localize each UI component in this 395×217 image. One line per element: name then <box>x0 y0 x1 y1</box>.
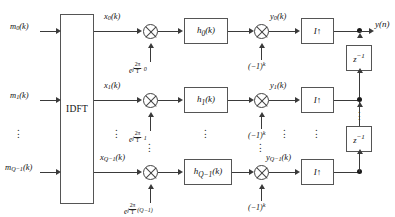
exponential-label-row1: ej2πT· 1 <box>129 131 147 144</box>
block-diagram-canvas: IDFT m0(k) x0(k) ej2πT· 0 h0(k) (−1)k y0… <box>0 0 395 217</box>
arrow-sign-row2 <box>259 184 265 189</box>
wire-sign-row1 <box>261 117 262 129</box>
wire-tosign-row0 <box>228 31 251 32</box>
sign-multiplier-row2 <box>254 165 269 180</box>
wire-tointerp-row0 <box>269 31 297 32</box>
output-label: y(n) <box>375 20 390 29</box>
wire-exp-row1 <box>150 117 151 131</box>
interpolator-block-row1: I↑ <box>301 87 334 113</box>
delay-label-0: z−1 <box>353 52 365 64</box>
arrow-in-row2 <box>56 169 61 175</box>
arrow-tointerp-row2 <box>295 169 300 175</box>
filter-label-row2: hQ−1(k) <box>194 166 223 179</box>
sign-multiplier-row1 <box>254 93 269 108</box>
arrow-in-row1 <box>56 97 61 103</box>
arrow-output <box>369 28 374 34</box>
input-label-row0: m0(k) <box>10 22 29 32</box>
ellipsis-delays: ... <box>358 108 361 119</box>
filter-block-row0: h0(k) <box>184 18 228 44</box>
arrow-sign-row0 <box>259 43 265 48</box>
wire-tointerp-row1 <box>269 100 297 101</box>
arrow-tofilter-row2 <box>178 169 183 175</box>
y-label-row0: y0(k) <box>270 12 286 22</box>
ellipsis-inputs: ... <box>17 126 20 137</box>
wire-exp-row2 <box>150 189 151 203</box>
interpolator-label-row2: I↑ <box>314 167 322 177</box>
arrow-delay1-in <box>357 149 363 154</box>
arrow-delay-top-up <box>357 33 363 38</box>
modulator-multiplier-row2 <box>143 165 158 180</box>
wire-delay0-in <box>359 71 360 97</box>
y-label-row2: yQ−1(k) <box>266 153 291 163</box>
wire-x-row1 <box>94 100 139 101</box>
filter-label-row1: h1(k) <box>197 94 215 107</box>
input-label-row1: m1(k) <box>10 91 29 101</box>
x-label-row2: xQ−1(k) <box>100 153 125 163</box>
wire-delay1-in <box>359 152 360 172</box>
filter-label-row0: h0(k) <box>197 25 215 38</box>
interpolator-label-row0: I↑ <box>314 26 322 36</box>
interpolator-label-row1: I↑ <box>314 95 322 105</box>
arrow-x-row0 <box>137 28 142 34</box>
input-label-row2: mQ−1(k) <box>5 163 32 173</box>
arrow-tointerp-row0 <box>295 28 300 34</box>
arrow-exp-row0 <box>148 43 154 48</box>
delay-label-1: z−1 <box>353 133 365 145</box>
wire-tofilter-row0 <box>158 31 180 32</box>
idft-label: IDFT <box>66 104 88 114</box>
x-label-row0: x0(k) <box>104 12 120 22</box>
wire-tointerp-row2 <box>269 172 297 173</box>
exponential-label-row2: ej2πT·(Q−1) <box>124 203 153 216</box>
sign-multiplier-row0 <box>254 24 269 39</box>
wire-sign-row2 <box>261 189 262 201</box>
arrow-x-row2 <box>137 169 142 175</box>
exponential-label-row0: ej2πT· 0 <box>129 62 147 75</box>
arrow-tofilter-row1 <box>178 97 183 103</box>
sign-label-row1: (−1)k <box>248 130 265 140</box>
arrow-sign-row1 <box>259 112 265 117</box>
wire-tofilter-row1 <box>158 100 180 101</box>
arrow-x-row1 <box>137 97 142 103</box>
filter-block-row2: hQ−1(k) <box>184 159 232 185</box>
wire-tosign-row1 <box>228 100 251 101</box>
y-label-row1: y1(k) <box>270 81 286 91</box>
ellipsis-y: ... <box>283 126 286 137</box>
arrow-tointerp-row1 <box>295 97 300 103</box>
wire-tofilter-row2 <box>158 172 180 173</box>
ellipsis-sign: ... <box>259 140 262 151</box>
arrow-in-row0 <box>56 28 61 34</box>
ellipsis-x: ... <box>115 126 118 137</box>
ellipsis-modulators: ... <box>148 140 151 151</box>
sign-label-row0: (−1)k <box>248 61 265 71</box>
wire-x-row0 <box>94 31 139 32</box>
wire-sign-row0 <box>261 48 262 60</box>
filter-block-row1: h1(k) <box>184 87 228 113</box>
ellipsis-filters: ... <box>204 126 207 137</box>
ellipsis-interpolators: ... <box>315 126 318 137</box>
sign-label-row2: (−1)k <box>248 202 265 212</box>
arrow-exp-row2 <box>148 184 154 189</box>
wire-x-row2 <box>94 172 139 173</box>
arrow-delay0-in <box>357 68 363 73</box>
interpolator-block-row2: I↑ <box>301 159 334 185</box>
arrow-tofilter-row0 <box>178 28 183 34</box>
interpolator-block-row0: I↑ <box>301 18 334 44</box>
x-label-row1: x1(k) <box>104 81 120 91</box>
idft-block: IDFT <box>60 14 94 204</box>
arrow-exp-row1 <box>148 112 154 117</box>
modulator-multiplier-row1 <box>143 93 158 108</box>
modulator-multiplier-row0 <box>143 24 158 39</box>
wire-exp-row0 <box>150 48 151 62</box>
